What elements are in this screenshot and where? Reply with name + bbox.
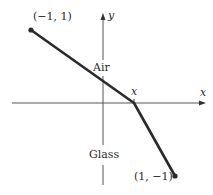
x-axis-arrow-icon: [199, 101, 206, 106]
start-point-label: (−1, 1): [33, 11, 72, 23]
end-point: [172, 173, 177, 178]
start-point: [28, 27, 33, 32]
region-air-label: Air: [93, 62, 110, 74]
end-point-label: (1, −1): [134, 171, 173, 183]
interface-point-label: x: [131, 86, 137, 98]
y-axis-label: y: [108, 10, 114, 22]
x-axis-label: x: [200, 87, 206, 99]
diagram-canvas: [0, 0, 213, 195]
y-axis-arrow-icon: [101, 13, 106, 20]
region-glass-label: Glass: [89, 149, 119, 161]
x-axis: [12, 101, 206, 106]
refraction-diagram: (−1, 1) y Air x x Glass (1, −1): [0, 0, 213, 195]
